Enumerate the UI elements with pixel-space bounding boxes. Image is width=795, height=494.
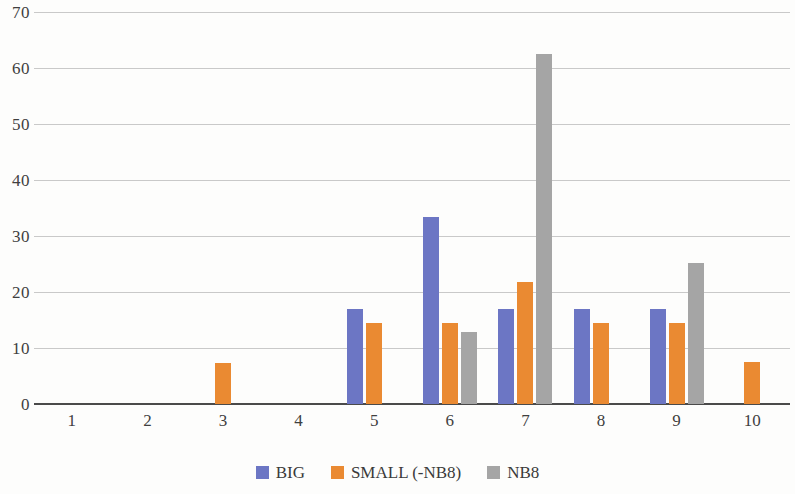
x-axis-tick-label: 5 <box>349 412 399 429</box>
legend-swatch-icon <box>256 466 269 479</box>
y-axis-tick-label: 0 <box>0 396 30 413</box>
y-axis-tick-label: 10 <box>0 340 30 357</box>
legend-label: NB8 <box>507 464 539 481</box>
bar-chart: 010203040506070 12345678910 BIGSMALL (-N… <box>0 0 795 494</box>
legend-item[interactable]: BIG <box>256 464 305 481</box>
y-axis-tick-label: 40 <box>0 172 30 189</box>
legend-swatch-icon <box>487 466 500 479</box>
bar <box>593 323 609 404</box>
y-axis-tick-label: 30 <box>0 228 30 245</box>
bar <box>347 309 363 404</box>
legend-item[interactable]: SMALL (-NB8) <box>331 464 461 481</box>
x-axis-tick-label: 3 <box>198 412 248 429</box>
bar <box>366 323 382 404</box>
y-axis-tick-label: 60 <box>0 60 30 77</box>
bar <box>215 363 231 404</box>
legend-label: SMALL (-NB8) <box>351 464 461 481</box>
x-axis-tick-labels: 12345678910 <box>34 412 790 442</box>
x-axis-tick-label: 9 <box>652 412 702 429</box>
legend-swatch-icon <box>331 466 344 479</box>
bar <box>517 282 533 404</box>
bar <box>650 309 666 404</box>
bars-layer <box>34 0 790 404</box>
bar <box>688 263 704 404</box>
y-axis-tick-label: 50 <box>0 116 30 133</box>
legend-item[interactable]: NB8 <box>487 464 539 481</box>
bar <box>536 54 552 404</box>
chart-legend: BIGSMALL (-NB8)NB8 <box>0 464 795 481</box>
x-axis-tick-label: 4 <box>274 412 324 429</box>
x-axis-tick-label: 1 <box>47 412 97 429</box>
bar <box>423 217 439 404</box>
bar <box>669 323 685 404</box>
x-axis-tick-label: 7 <box>500 412 550 429</box>
bar <box>461 332 477 404</box>
bar <box>744 362 760 404</box>
y-axis-tick-label: 70 <box>0 4 30 21</box>
bar <box>442 323 458 404</box>
legend-label: BIG <box>276 464 305 481</box>
x-axis-tick-label: 10 <box>727 412 777 429</box>
x-axis-tick-label: 2 <box>122 412 172 429</box>
y-axis-tick-labels: 010203040506070 <box>0 0 30 494</box>
x-axis-tick-label: 8 <box>576 412 626 429</box>
bar <box>498 309 514 404</box>
x-axis-tick-label: 6 <box>425 412 475 429</box>
y-axis-tick-label: 20 <box>0 284 30 301</box>
bar <box>574 309 590 404</box>
